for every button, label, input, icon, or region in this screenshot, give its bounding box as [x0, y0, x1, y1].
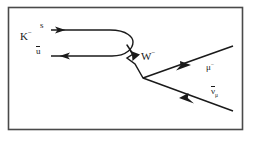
w-charge-superscript: −: [151, 49, 155, 56]
antiparticle-overbar: u: [36, 47, 41, 56]
kaon-charge-superscript: −: [28, 29, 32, 36]
antiparticle-overbar: ν: [211, 87, 215, 96]
feynman-diagram-canvas: [0, 0, 258, 142]
muon-charge-superscript: −: [211, 61, 214, 67]
antineutrino-flavor-subscript: μ: [215, 92, 218, 98]
kaon-label: K−: [20, 30, 32, 42]
strange-quark-label: s: [40, 21, 44, 30]
antineutrino-label: νμ: [211, 87, 218, 98]
muon-label: μ−: [206, 62, 214, 72]
w-boson-label: W−: [141, 50, 155, 62]
feynman-diagram-figure: K− s u W− μ− νμ: [0, 0, 258, 142]
up-antiquark-label: u: [36, 47, 41, 56]
